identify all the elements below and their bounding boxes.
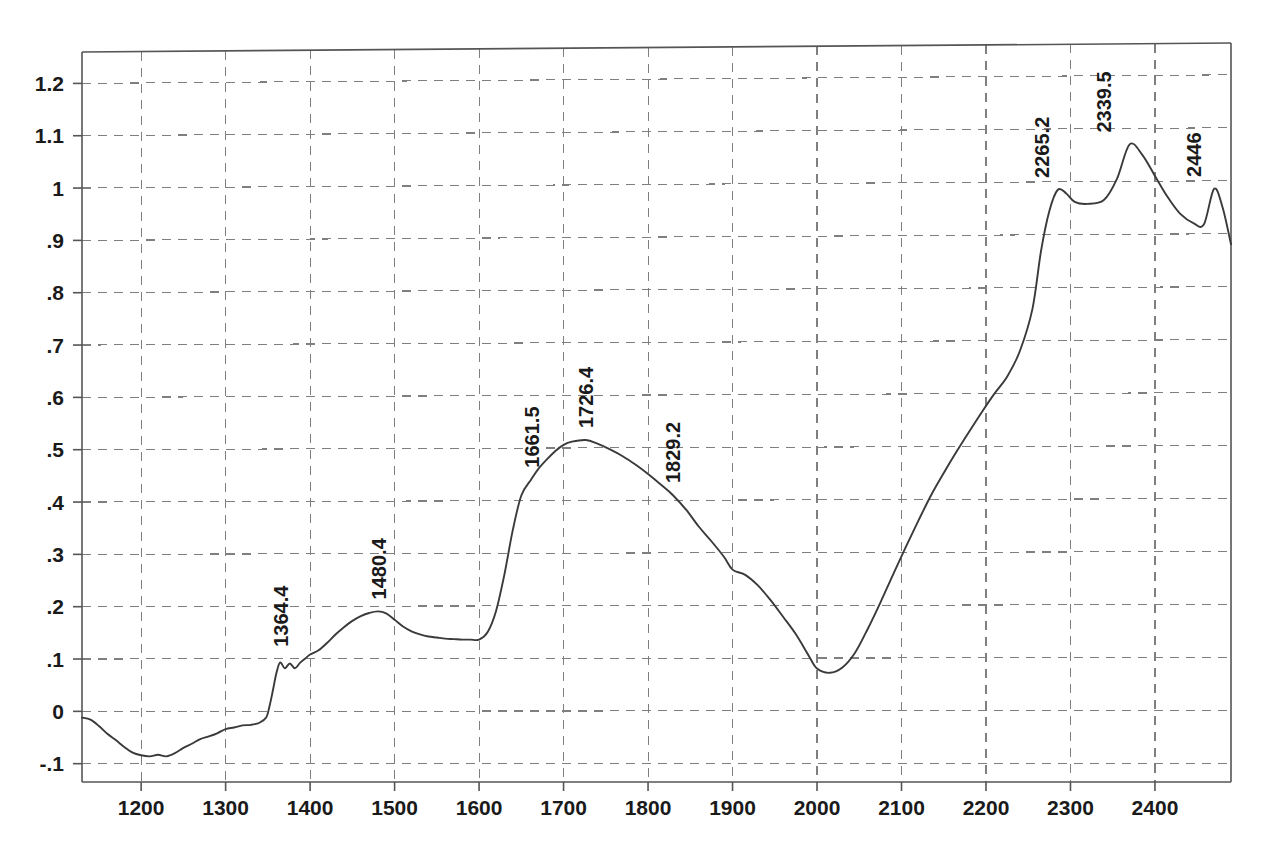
y-tick-label-.2: .2 [46,595,64,618]
y-tick-label-.6: .6 [46,386,64,409]
x-tick-label-1200: 1200 [118,796,165,819]
y-tick-label-.9: .9 [46,229,64,252]
peak-label-1364.4: 1364.4 [270,585,292,647]
peak-label-2339.5: 2339.5 [1093,71,1115,132]
x-tick-label-2100: 2100 [878,796,925,819]
y-tick-label--.1: -.1 [39,752,64,775]
y-tick-label-.5: .5 [46,438,64,461]
y-tick-label-.1: .1 [46,648,64,671]
ir-spectrum-figure: -.10.1.2.3.4.5.6.7.8.911.11.2 1200130014… [0,0,1286,848]
peak-label-1480.4: 1480.4 [368,537,390,599]
x-tick-label-1900: 1900 [709,796,756,819]
y-tick-label-.3: .3 [46,543,64,566]
y-tick-label-.7: .7 [46,334,64,357]
spectrum-plot-area: -.10.1.2.3.4.5.6.7.8.911.11.2 1200130014… [0,0,1286,848]
peak-label-2446: 2446 [1183,132,1205,177]
y-tick-label-.8: .8 [46,281,64,304]
x-tick-label-2200: 2200 [963,796,1010,819]
y-tick-label-.4: .4 [46,491,64,514]
x-tick-label-2000: 2000 [794,796,841,819]
x-tick-label-1700: 1700 [540,796,587,819]
x-tick-label-1800: 1800 [625,796,672,819]
y-tick-label-0: 0 [52,700,64,723]
x-tick-label-2400: 2400 [1132,796,1179,819]
x-tick-label-1300: 1300 [202,796,249,819]
x-tick-label-1600: 1600 [456,796,503,819]
x-tick-label-2300: 2300 [1047,796,1094,819]
y-tick-label-1.1: 1.1 [35,124,65,147]
peak-label-1726.4: 1726.4 [575,366,597,428]
x-tick-label-1500: 1500 [371,796,418,819]
x-tick-label-1400: 1400 [287,796,334,819]
peak-label-1829.2: 1829.2 [662,422,684,483]
peak-label-1661.5: 1661.5 [521,406,543,467]
peak-label-2265.2: 2265.2 [1031,117,1053,178]
y-tick-label-1: 1 [52,177,64,200]
y-tick-label-1.2: 1.2 [35,72,64,95]
